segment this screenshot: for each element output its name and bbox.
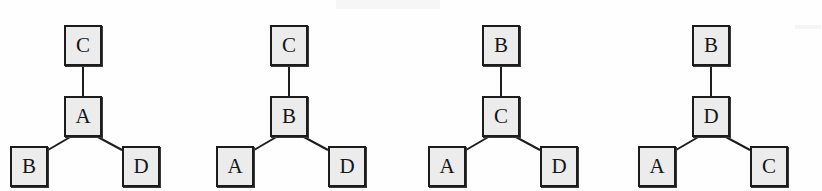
tree-3-middle-label: C [494,106,508,127]
tree-4-root-node[interactable]: B [692,25,730,66]
tree-2-leaf-left-node[interactable]: A [216,146,254,187]
tree-4-root-label: B [704,35,718,56]
tree-1-root-node[interactable]: C [64,25,102,66]
tree-diagram-figure: C A B D C B A D [0,0,822,191]
tree-2-leaf-left-label: A [227,156,242,177]
tree-2-leaf-right-node[interactable]: D [328,146,366,187]
tree-2-leaf-right-label: D [339,156,354,177]
tree-2-middle-node[interactable]: B [270,96,308,137]
tree-2-root-node[interactable]: C [270,25,308,66]
tree-3-leaf-left-node[interactable]: A [428,146,466,187]
tree-4: B D A C [638,0,822,191]
tree-1-middle-node[interactable]: A [64,96,102,137]
tree-1-leaf-right-node[interactable]: D [122,146,160,187]
tree-4-middle-node[interactable]: D [692,96,730,137]
tree-3-middle-node[interactable]: C [482,96,520,137]
tree-1: C A B D [10,0,210,191]
tree-1-leaf-left-node[interactable]: B [10,146,48,187]
tree-3-root-label: B [494,35,508,56]
tree-3-leaf-right-label: D [551,156,566,177]
tree-1-leaf-left-label: B [22,156,36,177]
tree-3-leaf-left-label: A [439,156,454,177]
tree-4-leaf-left-label: A [649,156,664,177]
tree-1-root-label: C [76,35,90,56]
tree-2: C B A D [216,0,416,191]
tree-2-middle-label: B [282,106,296,127]
tree-4-leaf-right-node[interactable]: C [750,146,788,187]
tree-2-root-label: C [282,35,296,56]
tree-1-middle-label: A [75,106,90,127]
tree-1-leaf-right-label: D [133,156,148,177]
tree-4-leaf-right-label: C [762,156,776,177]
tree-3-leaf-right-node[interactable]: D [540,146,578,187]
tree-4-middle-label: D [703,106,718,127]
tree-4-leaf-left-node[interactable]: A [638,146,676,187]
tree-3-root-node[interactable]: B [482,25,520,66]
tree-3: B C A D [428,0,628,191]
